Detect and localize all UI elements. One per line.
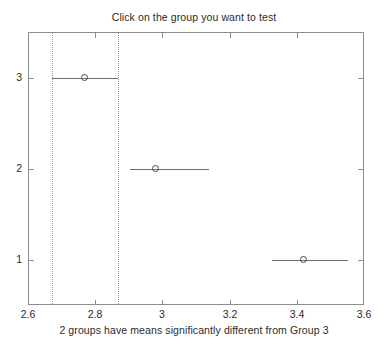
x-tick-label: 3.6: [344, 308, 384, 320]
x-tick-label: 3.4: [277, 308, 317, 320]
x-tick-mark: [297, 300, 298, 305]
x-tick-mark-top: [297, 33, 298, 38]
y-tick-label: 3: [2, 71, 22, 83]
x-tick-label: 3: [142, 308, 182, 320]
status-caption: 2 groups have means significantly differ…: [0, 324, 388, 336]
y-tick-mark-right: [358, 169, 363, 170]
x-tick-mark: [162, 300, 163, 305]
reference-line: [118, 33, 119, 304]
y-tick-mark: [29, 78, 34, 79]
page-title: Click on the group you want to test: [0, 11, 388, 23]
group-mean-marker[interactable]: [81, 74, 88, 81]
x-tick-mark-top: [162, 33, 163, 38]
group-mean-marker[interactable]: [300, 256, 307, 263]
group-mean-marker[interactable]: [152, 165, 159, 172]
y-tick-mark: [29, 260, 34, 261]
multcompare-figure: Click on the group you want to test 2.62…: [0, 0, 388, 347]
x-tick-mark-top: [95, 33, 96, 38]
reference-line: [52, 33, 53, 304]
y-tick-label: 1: [2, 253, 22, 265]
confidence-interval-line[interactable]: [130, 169, 209, 170]
y-tick-label: 2: [2, 162, 22, 174]
x-tick-mark: [230, 300, 231, 305]
y-tick-mark-right: [358, 260, 363, 261]
y-tick-mark-right: [358, 78, 363, 79]
confidence-interval-line[interactable]: [272, 260, 348, 261]
x-tick-label: 2.8: [75, 308, 115, 320]
x-tick-mark-top: [230, 33, 231, 38]
y-tick-mark: [29, 169, 34, 170]
x-tick-label: 3.2: [210, 308, 250, 320]
x-tick-label: 2.6: [8, 308, 48, 320]
x-tick-mark: [95, 300, 96, 305]
